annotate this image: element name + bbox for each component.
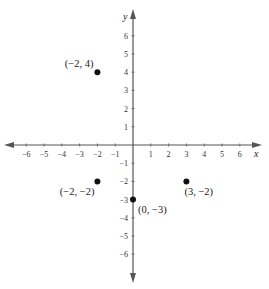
x-tick-label: 1 xyxy=(149,150,153,159)
data-point-label: (−2, −2) xyxy=(60,186,95,198)
y-tick-label: 3 xyxy=(124,86,128,95)
y-tick-label: 2 xyxy=(124,105,128,114)
axes: xy xyxy=(4,9,262,283)
x-tick-label: −1 xyxy=(111,150,120,159)
x-tick-label: −4 xyxy=(58,150,67,159)
data-point xyxy=(130,197,136,203)
data-point-label: (0, −3) xyxy=(138,204,167,216)
y-tick-label: −1 xyxy=(119,159,128,168)
y-tick-label: 4 xyxy=(124,68,128,77)
x-tick-label: 4 xyxy=(202,150,206,159)
y-tick-label: −6 xyxy=(119,250,128,259)
data-point xyxy=(94,178,100,184)
y-tick-label: 5 xyxy=(124,50,128,59)
x-tick-label: −5 xyxy=(40,150,49,159)
y-axis-up-arrow-icon xyxy=(130,9,136,19)
x-tick-label: −2 xyxy=(93,150,102,159)
data-point-label: (−2, 4) xyxy=(65,58,94,70)
x-tick-label: −6 xyxy=(22,150,31,159)
y-tick-label: −4 xyxy=(119,214,128,223)
y-tick-label: −2 xyxy=(119,177,128,186)
data-point xyxy=(183,178,189,184)
x-tick-label: 2 xyxy=(167,150,171,159)
coordinate-plane: xy −6−5−4−3−2−1123456−6−5−4−3−2−1123456 … xyxy=(0,0,269,289)
x-axis-label: x xyxy=(253,148,259,159)
x-axis-left-arrow-icon xyxy=(4,142,14,148)
y-tick-label: −3 xyxy=(119,196,128,205)
y-tick-label: −5 xyxy=(119,232,128,241)
y-axis-label: y xyxy=(122,11,128,22)
y-tick-label: 6 xyxy=(124,32,128,41)
data-point-label: (3, −2) xyxy=(184,186,213,198)
x-tick-label: 3 xyxy=(184,150,188,159)
x-tick-label: −3 xyxy=(75,150,84,159)
data-point xyxy=(94,69,100,75)
x-tick-label: 6 xyxy=(238,150,242,159)
data-points: (−2, 4)(−2, −2)(0, −3)(3, −2) xyxy=(60,58,214,215)
y-tick-label: 1 xyxy=(124,123,128,132)
y-axis-down-arrow-icon xyxy=(130,273,136,283)
x-tick-label: 5 xyxy=(220,150,224,159)
